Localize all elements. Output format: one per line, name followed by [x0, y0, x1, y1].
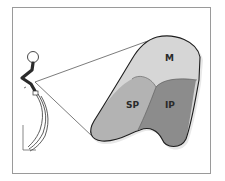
label-m: M [165, 53, 174, 63]
label-ip: IP [165, 100, 175, 110]
diagram-canvas: M SP IP [0, 0, 225, 181]
head-icon [28, 52, 39, 63]
label-sp: SP [126, 100, 139, 110]
